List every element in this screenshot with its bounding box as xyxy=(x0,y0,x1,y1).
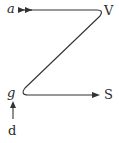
z-path-line xyxy=(23,10,101,95)
label-v: V xyxy=(104,4,113,17)
z-flow-diagram: a V g S d xyxy=(0,0,119,143)
label-g: g xyxy=(7,86,15,99)
arrowhead-right-icon xyxy=(92,92,100,98)
label-a: a xyxy=(7,2,15,15)
double-arrowhead-icon xyxy=(18,7,32,13)
arrowhead-up-icon xyxy=(10,101,16,108)
diagram-canvas xyxy=(0,0,119,143)
label-d: d xyxy=(8,124,16,137)
label-s: S xyxy=(104,88,113,101)
